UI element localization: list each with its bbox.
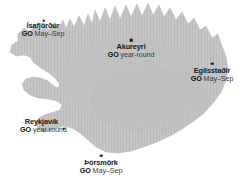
city-go-akureyri: GO year-round: [108, 51, 155, 58]
city-go-isafjordur: GO May–Sep: [22, 30, 65, 37]
city-go-thorsmork: GO May–Sep: [80, 167, 123, 174]
go-word-akureyri: GO: [108, 50, 119, 59]
city-label-thorsmork[interactable]: Þórsmörk GO May–Sep: [80, 159, 123, 174]
city-go-reykjavik: GO year-round: [20, 126, 58, 133]
go-season-value-akureyri: year-round: [121, 50, 155, 59]
go-word-isafjordur: GO: [22, 29, 33, 38]
go-word-thorsmork: GO: [80, 166, 91, 175]
city-go-egilsstadir: GO May–Sep: [191, 75, 234, 82]
city-label-reykjavik[interactable]: Reykjavík GO year-round: [20, 118, 58, 133]
marker-egilsstadir[interactable]: [211, 62, 214, 65]
marker-thorsmork[interactable]: [100, 154, 103, 157]
iceland-map: Ísafjörður GO May–Sep Akureyri GO year-r…: [0, 0, 247, 179]
go-season-value-reykjavik: year-round: [33, 125, 67, 134]
go-season-value-thorsmork: May–Sep: [93, 166, 123, 175]
city-label-isafjordur[interactable]: Ísafjörður GO May–Sep: [22, 22, 65, 37]
go-word-egilsstadir: GO: [191, 74, 202, 83]
go-season-value-isafjordur: May–Sep: [35, 29, 65, 38]
city-label-akureyri[interactable]: Akureyri GO year-round: [108, 43, 155, 58]
go-word-reykjavik: GO: [20, 125, 31, 134]
marker-akureyri[interactable]: [130, 39, 133, 42]
go-season-value-egilsstadir: May–Sep: [204, 74, 234, 83]
city-label-egilsstadir[interactable]: Egilsstaðir GO May–Sep: [191, 67, 234, 82]
